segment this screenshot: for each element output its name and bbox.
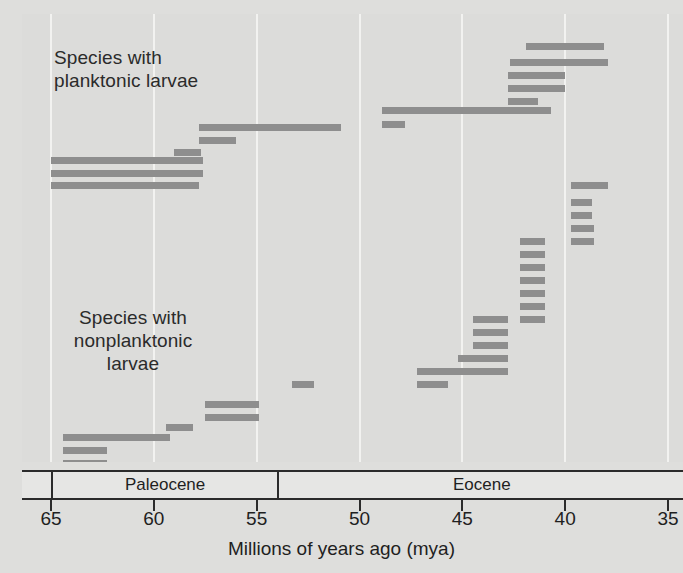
species-range-bar (63, 447, 106, 454)
species-range-bar (571, 225, 594, 232)
plot-area: Species with planktonic larvae Species w… (22, 14, 683, 462)
species-range-bar (508, 98, 539, 105)
species-range-bar (571, 212, 592, 219)
species-range-bar (526, 43, 604, 50)
gridline-65 (50, 14, 52, 462)
species-range-bar (166, 424, 193, 431)
group-label-planktonic: Species with planktonic larvae (54, 46, 198, 92)
gridline-35 (667, 14, 669, 462)
species-range-bar (520, 238, 545, 245)
species-range-bar (520, 264, 545, 271)
x-axis-title: Millions of years ago (mya) (0, 538, 683, 560)
species-range-bar (51, 170, 203, 177)
epoch-paleocene: Paleocene (51, 472, 277, 498)
species-range-bar (417, 368, 507, 375)
species-range-bar (199, 124, 341, 131)
species-range-bar (174, 149, 201, 156)
species-range-bar (520, 277, 545, 284)
species-range-bar (51, 157, 203, 164)
species-range-bar (571, 199, 592, 206)
species-range-bar (520, 251, 545, 258)
x-tick-label-45: 45 (452, 508, 473, 530)
figure-container: Species with planktonic larvae Species w… (0, 0, 683, 573)
species-range-bar (510, 59, 609, 66)
gridline-45 (461, 14, 463, 462)
epoch-eocene: Eocene (277, 472, 683, 498)
gridline-50 (359, 14, 361, 462)
species-range-bar (292, 381, 315, 388)
gridline-55 (256, 14, 258, 462)
species-range-bar (382, 121, 405, 128)
species-range-bar (382, 107, 551, 114)
epoch-band: PaleoceneEocene (22, 470, 683, 500)
species-range-bar (520, 290, 545, 297)
species-range-bar (51, 182, 199, 189)
species-range-bar (508, 72, 566, 79)
group-label-nonplanktonic: Species with nonplanktonic larvae (48, 306, 218, 375)
species-range-bar (205, 414, 258, 421)
species-range-bar (571, 182, 608, 189)
species-range-bar (63, 434, 170, 441)
x-tick-label-60: 60 (143, 508, 164, 530)
gridline-40 (564, 14, 566, 462)
x-tick-label-65: 65 (40, 508, 61, 530)
species-range-bar (205, 401, 258, 408)
species-range-bar (508, 85, 566, 92)
species-range-bar (520, 303, 545, 310)
x-tick-label-55: 55 (246, 508, 267, 530)
species-range-bar (473, 329, 508, 336)
species-range-bar (473, 342, 508, 349)
species-range-bar (458, 355, 507, 362)
species-range-bar (520, 316, 545, 323)
species-range-bar (63, 460, 106, 462)
species-range-bar (417, 381, 448, 388)
species-range-bar (473, 316, 508, 323)
species-range-bar (199, 137, 236, 144)
x-tick-label-40: 40 (555, 508, 576, 530)
species-range-bar (571, 238, 594, 245)
x-tick-label-35: 35 (657, 508, 678, 530)
x-tick-label-50: 50 (349, 508, 370, 530)
